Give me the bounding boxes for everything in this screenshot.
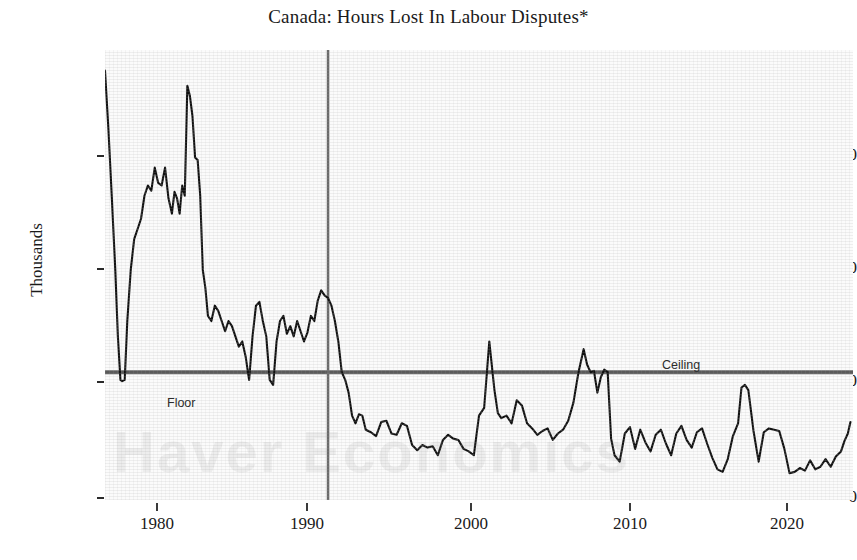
plot-svg	[105, 50, 853, 500]
x-tick-label-2020: 2020	[752, 514, 822, 534]
x-tick-label-1990: 1990	[272, 514, 342, 534]
x-tick-label-1980: 1980	[122, 514, 192, 534]
annotation-ceiling: Ceiling	[662, 358, 700, 372]
x-tick-mark-1990	[306, 503, 308, 511]
y-tick-mark-1000	[97, 268, 104, 270]
x-tick-mark-2000	[470, 503, 472, 511]
x-tick-mark-2010	[629, 503, 631, 511]
data-series-line	[105, 70, 850, 473]
chart-figure: Canada: Hours Lost In Labour Disputes* T…	[0, 0, 857, 560]
annotation-floor: Floor	[167, 396, 195, 410]
plot-area: Haver Economics Floor Ceiling	[105, 50, 853, 500]
chart-title: Canada: Hours Lost In Labour Disputes*	[0, 6, 857, 28]
x-tick-label-2000: 2000	[436, 514, 506, 534]
x-tick-mark-1980	[156, 503, 158, 511]
x-tick-mark-2020	[786, 503, 788, 511]
y-tick-mark-1500	[97, 155, 104, 157]
y-axis-label: Thousands	[27, 190, 47, 330]
y-tick-mark-0	[97, 497, 104, 499]
y-tick-mark-500	[97, 381, 104, 383]
x-tick-label-2010: 2010	[595, 514, 665, 534]
